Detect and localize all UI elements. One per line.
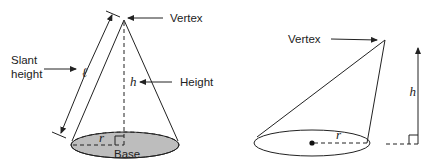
- cone-side-left: [72, 20, 124, 141]
- base-center-dot: [309, 140, 314, 145]
- height-symbol: h: [130, 74, 137, 89]
- oblique-radius-symbol: r: [336, 127, 342, 142]
- slant-label-line2: height: [11, 68, 43, 80]
- height-label: Height: [180, 76, 214, 88]
- vertex-label: Vertex: [170, 12, 203, 24]
- oblique-vertex-label: Vertex: [288, 33, 321, 45]
- oblique-cone: Vertex h r: [254, 33, 418, 156]
- slant-dimension-line-down: [61, 72, 86, 133]
- cone-diagram: Vertex Slant height ℓ h Height r Base Ve…: [0, 0, 431, 168]
- slant-dimension-line-up: [86, 15, 112, 72]
- right-circular-cone: Vertex Slant height ℓ h Height r Base: [11, 11, 214, 160]
- slant-tick-top: [106, 11, 120, 17]
- oblique-side-right: [367, 40, 385, 143]
- slant-tick-bottom: [52, 132, 66, 138]
- oblique-side-left: [257, 40, 385, 137]
- slant-label-line1: Slant: [11, 54, 38, 66]
- oblique-height-symbol: h: [410, 84, 417, 99]
- slant-symbol: ℓ: [82, 65, 88, 80]
- base-label: Base: [114, 148, 140, 160]
- oblique-right-angle-mark: [409, 135, 418, 144]
- oblique-vertex-arrow: [331, 39, 377, 40]
